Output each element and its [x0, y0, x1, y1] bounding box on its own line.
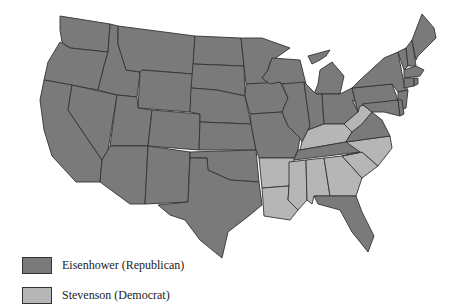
state-mi: [314, 62, 344, 94]
state-mt: [118, 26, 195, 74]
state-wy: [138, 70, 193, 112]
legend: Eisenhower (Republican) Stevenson (Democ…: [22, 250, 184, 308]
state-fl: [314, 196, 374, 252]
state-ks: [199, 122, 256, 150]
legend-item-republican: Eisenhower (Republican): [22, 250, 184, 280]
state-ri: [414, 78, 418, 86]
state-ct: [404, 78, 414, 88]
legend-label-republican: Eisenhower (Republican): [62, 258, 184, 273]
legend-swatch-republican: [22, 257, 52, 274]
state-ia: [245, 82, 288, 114]
state-nm: [145, 146, 190, 204]
state-mi: [308, 50, 330, 64]
state-ma: [404, 66, 424, 78]
legend-label-democrat: Stevenson (Democrat): [62, 288, 170, 303]
state-co: [148, 110, 200, 150]
legend-swatch-democrat: [22, 287, 52, 304]
state-ms: [288, 160, 307, 210]
legend-item-democrat: Stevenson (Democrat): [22, 280, 184, 308]
state-az: [100, 146, 148, 204]
state-me: [412, 14, 436, 60]
state-nd: [193, 36, 244, 66]
